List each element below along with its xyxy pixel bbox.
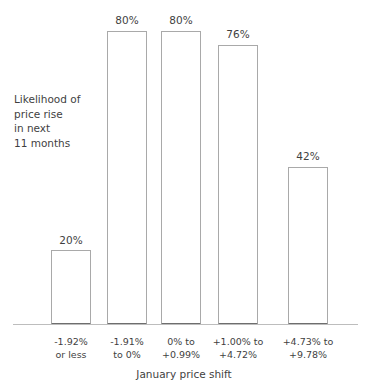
- bar-1: [107, 31, 147, 325]
- bar-value-4: 42%: [278, 150, 338, 162]
- bar-value-2: 80%: [151, 14, 211, 26]
- bar-0: [51, 250, 91, 325]
- x-axis-line: [13, 324, 358, 325]
- plot-area: 20% 80% 80% 76% 42%: [0, 0, 368, 325]
- bar-chart: Likelihood of price rise in next 11 mont…: [0, 0, 368, 389]
- bar-value-0: 20%: [41, 234, 101, 246]
- x-tick-label-3: +1.00% to +4.72%: [198, 336, 278, 361]
- bar-value-3: 76%: [208, 28, 268, 40]
- bar-4: [288, 167, 328, 325]
- x-axis-title: January price shift: [0, 368, 368, 380]
- bar-2: [161, 31, 201, 325]
- bar-value-1: 80%: [97, 14, 157, 26]
- bar-3: [218, 45, 258, 325]
- x-tick-label-4: +4.73% to +9.78%: [268, 336, 348, 361]
